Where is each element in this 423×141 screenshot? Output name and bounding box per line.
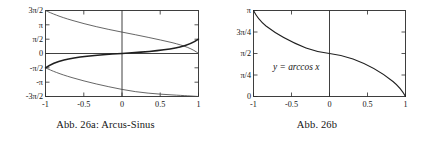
y-tick-label: π <box>247 6 252 15</box>
y-tick-label: -3π/2 <box>26 92 43 101</box>
x-tick-label: 0.5 <box>362 100 372 109</box>
figure-caption-arcsin: Abb. 26a: Arcus-Sinus <box>0 119 211 130</box>
x-tick-labels: -1 -0.5 0 0.5 1 <box>42 100 200 109</box>
x-tick-label: 1 <box>403 100 407 109</box>
y-tick-label: 3π/2 <box>28 6 43 15</box>
x-tick-label: -1 <box>250 100 257 109</box>
y-tickmarks-right <box>402 32 406 75</box>
x-tick-label: -1 <box>42 100 49 109</box>
figure-row: 3π/2 π π/2 0 -π/2 -π -3π/2 -1 -0.5 0 0.5… <box>0 0 423 141</box>
y-tickmarks <box>46 11 50 97</box>
figure-arccos: y = arccos x π 3π/4 π/2 π/4 0 -1 -0.5 0 … <box>211 0 423 141</box>
x-tick-label: 0 <box>120 100 124 109</box>
y-tick-label: -π <box>36 78 44 87</box>
y-tick-label: 3π/4 <box>236 28 251 37</box>
x-tick-label: 0.5 <box>155 100 165 109</box>
y-tick-label: π/2 <box>240 49 251 58</box>
arcsin-plot: 3π/2 π π/2 0 -π/2 -π -3π/2 -1 -0.5 0 0.5… <box>0 0 211 115</box>
x-tick-labels: -1 -0.5 0 0.5 1 <box>250 100 407 109</box>
arccos-plot: y = arccos x π 3π/4 π/2 π/4 0 -1 -0.5 0 … <box>211 0 423 115</box>
y-tick-labels: 3π/2 π π/2 0 -π/2 -π -3π/2 <box>26 6 44 101</box>
y-tickmarks <box>254 11 258 97</box>
x-tick-label: -0.5 <box>285 100 298 109</box>
x-tick-label: 1 <box>196 100 200 109</box>
y-tick-labels: π 3π/4 π/2 π/4 0 <box>236 6 251 101</box>
x-tick-label: 0 <box>327 100 331 109</box>
y-tick-label: 0 <box>39 49 43 58</box>
y-tick-label: π <box>39 21 44 30</box>
arccos-equation-label: y = arccos x <box>272 62 320 72</box>
y-tick-label: π/4 <box>240 71 251 80</box>
figure-caption-arccos: Abb. 26b <box>211 119 423 130</box>
y-tick-label: -π/2 <box>30 64 43 73</box>
x-tick-label: -0.5 <box>77 100 90 109</box>
figure-arcsin: 3π/2 π π/2 0 -π/2 -π -3π/2 -1 -0.5 0 0.5… <box>0 0 211 141</box>
y-tick-label: π/2 <box>32 35 43 44</box>
